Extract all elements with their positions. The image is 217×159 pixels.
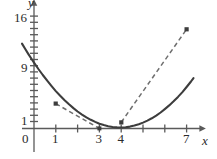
y-tick-label-16: 16 [14, 11, 27, 24]
x-axis-label: x [202, 134, 208, 147]
x-tick-label-0: 0 [22, 132, 29, 145]
marker-point-4-1 [119, 120, 123, 124]
y-tick-label-1: 1 [21, 114, 28, 127]
secant-lines [56, 29, 187, 128]
secant-right-line [121, 29, 186, 122]
x-tick-label-1: 1 [52, 132, 59, 145]
y-axis [30, 5, 38, 152]
y-axis-label: y [28, 0, 34, 9]
graph-figure: 16 9 1 0 1 3 4 7 x y [0, 0, 217, 159]
marker-point-7-16 [185, 27, 189, 31]
marker-point-1-4 [54, 102, 58, 106]
x-tick-label-7: 7 [183, 132, 190, 145]
y-tick-label-9: 9 [21, 61, 28, 74]
marker-point-3-0 [97, 126, 101, 130]
x-tick-label-4: 4 [118, 132, 125, 145]
x-tick-label-3: 3 [96, 132, 103, 145]
curve-point-markers [54, 27, 189, 130]
